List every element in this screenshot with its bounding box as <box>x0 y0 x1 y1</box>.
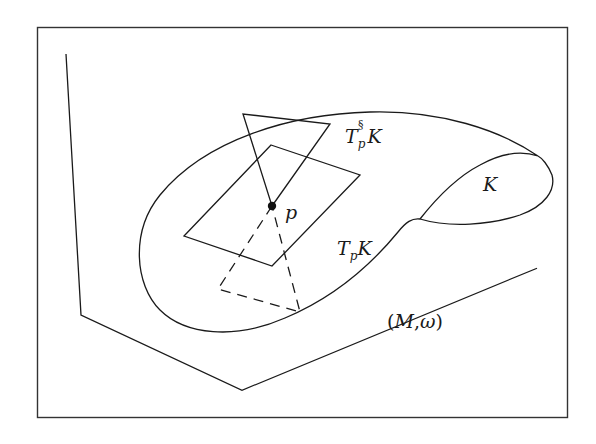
label-tp-symplectic-complement: Tp§K <box>345 127 382 146</box>
label-m-omega: (M,ω) <box>387 312 443 331</box>
label-m: M <box>394 310 413 332</box>
label-omega: ω <box>420 310 436 332</box>
diagram-canvas <box>0 0 596 444</box>
label-tail: K <box>357 237 371 259</box>
ambient-manifold-outline <box>66 54 537 390</box>
label-subscript: p <box>358 137 366 151</box>
label-tail: K <box>367 125 381 147</box>
label-k-text: K <box>483 173 497 195</box>
label-tp-k: TpK <box>337 239 372 258</box>
label-p: p <box>285 203 297 222</box>
label-base: T <box>337 237 350 259</box>
label-superscript: § <box>358 119 364 130</box>
point-p-marker <box>268 202 276 210</box>
label-base: T <box>345 125 358 147</box>
label-k: K <box>483 175 497 194</box>
label-close-paren: ) <box>435 310 442 332</box>
label-p-text: p <box>285 201 297 223</box>
label-subscript: p <box>350 249 358 263</box>
